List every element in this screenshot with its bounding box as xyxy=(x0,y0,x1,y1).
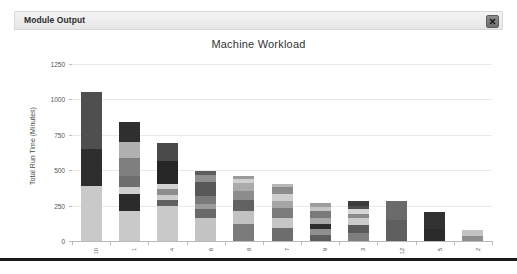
x-tick-mark xyxy=(301,241,302,245)
bar-segment xyxy=(157,161,178,184)
bar-segment xyxy=(386,201,407,220)
x-tick-label: 2 xyxy=(475,248,481,251)
bar-segment xyxy=(272,218,293,227)
y-tick-label: 0 xyxy=(61,238,65,245)
y-axis-label: Total Run Time (Minutes) xyxy=(29,107,36,185)
bar-4[interactable] xyxy=(157,143,178,241)
bar-segment xyxy=(272,201,293,208)
x-tick-mark xyxy=(454,241,455,245)
y-tick-mark xyxy=(69,170,72,171)
bar-segment xyxy=(272,194,293,202)
x-tick-mark xyxy=(339,241,340,245)
bar-1[interactable] xyxy=(119,122,140,241)
x-tick-mark xyxy=(148,241,149,245)
x-axis-line xyxy=(72,241,492,242)
bar-segment xyxy=(233,200,254,211)
bar-segment xyxy=(233,183,254,191)
gridline xyxy=(72,64,492,65)
bar-segment xyxy=(195,182,216,195)
bar-segment xyxy=(119,176,140,187)
page-divider xyxy=(0,258,517,261)
chart-container: Machine Workload Total Run Time (Minutes… xyxy=(14,30,503,262)
bar-segment xyxy=(233,224,254,241)
x-tick-mark xyxy=(72,241,73,245)
x-tick-label: 1 xyxy=(131,248,137,251)
y-tick-mark xyxy=(69,206,72,207)
bar-segment xyxy=(195,196,216,204)
x-tick-mark xyxy=(416,241,417,245)
bar-segment xyxy=(272,208,293,218)
bar-segment xyxy=(81,186,102,241)
panel-header: Module Output xyxy=(14,11,503,30)
x-tick-mark xyxy=(110,241,111,245)
x-tick-label: 10 xyxy=(93,248,99,254)
y-tick-mark xyxy=(69,99,72,100)
bar-2[interactable] xyxy=(462,230,483,241)
bar-3[interactable] xyxy=(348,201,369,241)
bar-segment xyxy=(233,191,254,199)
bar-segment xyxy=(195,218,216,241)
x-tick-mark xyxy=(492,241,493,245)
bar-8[interactable] xyxy=(233,176,254,241)
y-tick-label: 1250 xyxy=(51,61,65,68)
bar-segment xyxy=(386,220,407,241)
x-tick-label: 3 xyxy=(360,248,366,251)
bar-7[interactable] xyxy=(272,184,293,241)
x-tick-label: 9 xyxy=(322,248,328,251)
bar-segment xyxy=(195,209,216,217)
bar-segment xyxy=(119,142,140,158)
bar-segment xyxy=(157,206,178,241)
x-tick-mark xyxy=(225,241,226,245)
plot-area: 025050075010001250 xyxy=(72,64,492,241)
bar-segment xyxy=(424,229,445,241)
y-tick-label: 1000 xyxy=(51,96,65,103)
bar-segment xyxy=(157,143,178,161)
close-icon[interactable] xyxy=(486,15,499,28)
x-tick-label: 8 xyxy=(246,248,252,251)
bar-segment xyxy=(310,211,331,218)
bar-segment xyxy=(119,194,140,210)
bar-5[interactable] xyxy=(424,212,445,241)
bar-segment xyxy=(119,122,140,142)
panel-title: Module Output xyxy=(24,15,85,25)
bar-segment xyxy=(233,211,254,224)
bar-6[interactable] xyxy=(195,171,216,241)
bar-12[interactable] xyxy=(386,201,407,241)
gridline xyxy=(72,99,492,100)
bar-segment xyxy=(348,233,369,241)
chart-title: Machine Workload xyxy=(14,38,503,50)
x-tick-label: 7 xyxy=(284,248,290,251)
bar-10[interactable] xyxy=(81,92,102,241)
bar-segment xyxy=(119,211,140,241)
bar-segment xyxy=(119,187,140,194)
y-tick-label: 750 xyxy=(54,131,65,138)
x-tick-mark xyxy=(187,241,188,245)
bar-segment xyxy=(272,228,293,241)
bar-segment xyxy=(348,225,369,233)
bar-segment xyxy=(119,158,140,176)
close-glyph xyxy=(489,18,496,25)
x-tick-label: 5 xyxy=(437,248,443,251)
x-tick-mark xyxy=(377,241,378,245)
x-tick-label: 12 xyxy=(399,248,405,254)
y-tick-label: 250 xyxy=(54,202,65,209)
module-output-window: Module Output Machine Workload Total Run… xyxy=(0,0,517,274)
bar-segment xyxy=(195,175,216,183)
bar-segment xyxy=(81,149,102,186)
bar-segment xyxy=(81,92,102,149)
bar-9[interactable] xyxy=(310,203,331,241)
bar-segment xyxy=(424,212,445,229)
y-tick-mark xyxy=(69,135,72,136)
y-tick-mark xyxy=(69,64,72,65)
x-tick-label: 6 xyxy=(208,248,214,251)
x-tick-label: 4 xyxy=(169,248,175,251)
y-tick-label: 500 xyxy=(54,167,65,174)
x-tick-mark xyxy=(263,241,264,245)
